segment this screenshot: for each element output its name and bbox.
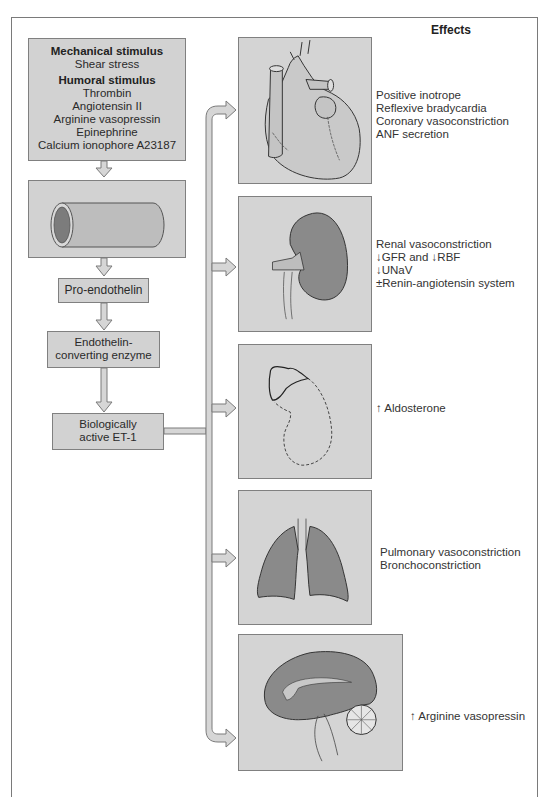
heart-icon xyxy=(239,38,371,183)
effect-item: ↓UNaV xyxy=(376,264,515,277)
heart-panel xyxy=(238,37,372,184)
effect-item: ↓GFR and ↓RBF xyxy=(376,251,515,264)
mechanical-stimulus-title: Mechanical stimulus xyxy=(29,45,185,58)
humoral-stimulus-title: Humoral stimulus xyxy=(29,74,185,87)
effect-item: Pulmonary vasoconstriction xyxy=(380,546,521,559)
ece-label-line1: Endothelin- xyxy=(48,336,159,349)
adrenal-gland-icon xyxy=(239,345,371,478)
pro-endothelin-label: Pro-endothelin xyxy=(64,283,142,297)
effect-item: ±Renin-angiotensin system xyxy=(376,277,515,290)
effect-item: ↑ Arginine vasopressin xyxy=(410,710,525,723)
et1-box: Biologically active ET-1 xyxy=(52,413,164,450)
brain-effects: ↑ Arginine vasopressin xyxy=(410,710,525,723)
brain-icon xyxy=(239,635,402,770)
adrenal-panel xyxy=(238,344,372,479)
humoral-item: Thrombin xyxy=(29,87,185,100)
effect-item: Renal vasoconstriction xyxy=(376,238,515,251)
stimulus-box: Mechanical stimulus Shear stress Humoral… xyxy=(28,38,186,161)
kidney-panel xyxy=(238,196,372,332)
ece-label-line2: converting enzyme xyxy=(48,349,159,362)
effects-title: Effects xyxy=(431,23,471,37)
adrenal-effects: ↑ Aldosterone xyxy=(376,402,446,415)
effect-item: Bronchoconstriction xyxy=(380,559,521,572)
humoral-item: Angiotensin II xyxy=(29,100,185,113)
vessel-box xyxy=(28,180,186,258)
lungs-icon xyxy=(239,491,371,624)
blood-vessel-icon xyxy=(29,181,187,259)
lungs-effects: Pulmonary vasoconstriction Bronchoconstr… xyxy=(380,546,521,572)
et1-label-line1: Biologically xyxy=(53,418,163,431)
et1-label-line2: active ET-1 xyxy=(53,431,163,444)
humoral-item: Arginine vasopressin xyxy=(29,113,185,126)
mechanical-item: Shear stress xyxy=(29,58,185,71)
kidney-effects: Renal vasoconstriction ↓GFR and ↓RBF ↓UN… xyxy=(376,238,515,290)
effect-item: Coronary vasoconstriction xyxy=(376,115,509,128)
pro-endothelin-box: Pro-endothelin xyxy=(58,278,149,303)
humoral-item: Epinephrine xyxy=(29,126,185,139)
effect-item: ANF secretion xyxy=(376,128,509,141)
effect-item: ↑ Aldosterone xyxy=(376,402,446,415)
effect-item: Positive inotrope xyxy=(376,89,509,102)
ece-box: Endothelin- converting enzyme xyxy=(47,331,160,368)
heart-effects: Positive inotrope Reflexive bradycardia … xyxy=(376,89,509,141)
effect-item: Reflexive bradycardia xyxy=(376,102,509,115)
brain-panel xyxy=(238,634,403,771)
kidney-icon xyxy=(239,197,371,331)
humoral-item: Calcium ionophore A23187 xyxy=(29,139,185,152)
lungs-panel xyxy=(238,490,372,625)
